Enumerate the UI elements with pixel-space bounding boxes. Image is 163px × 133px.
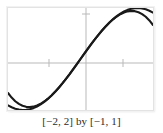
- calculator-screen-frame: [7, 7, 154, 111]
- function-plot: [8, 8, 153, 110]
- graph-figure: [−2, 2] by [−1, 1]: [0, 0, 163, 133]
- window-range-caption: [−2, 2] by [−1, 1]: [0, 114, 163, 128]
